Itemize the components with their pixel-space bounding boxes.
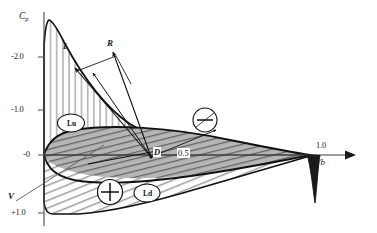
pressure-distribution-svg (0, 0, 377, 233)
x-axis-end-value: 1.0 (316, 141, 326, 150)
y-axis-label: Cp (19, 6, 29, 23)
mid-chord-label: 0.5 (177, 148, 190, 158)
lift-label: L (63, 42, 69, 51)
velocity-label: V (8, 192, 14, 201)
y-tick-zero: -0 (23, 150, 30, 159)
y-tick-minus-1: -1.0 (11, 105, 24, 114)
upper-region-label: Lu (58, 117, 85, 130)
lower-region-label: Ld (134, 187, 161, 200)
drag-label: D (153, 147, 161, 157)
figure-canvas: Cp -2.0 -1.0 -0 +1.0 1.0 x/b 0.5 L R D V… (0, 0, 377, 233)
x-axis-label: x/b (314, 158, 325, 167)
y-axis (38, 12, 44, 226)
resultant-label: R (107, 39, 113, 48)
y-tick-minus-2: -2.0 (11, 52, 24, 61)
y-tick-plus-1: +1.0 (11, 208, 26, 217)
vector-parallelogram-edge (77, 56, 116, 71)
